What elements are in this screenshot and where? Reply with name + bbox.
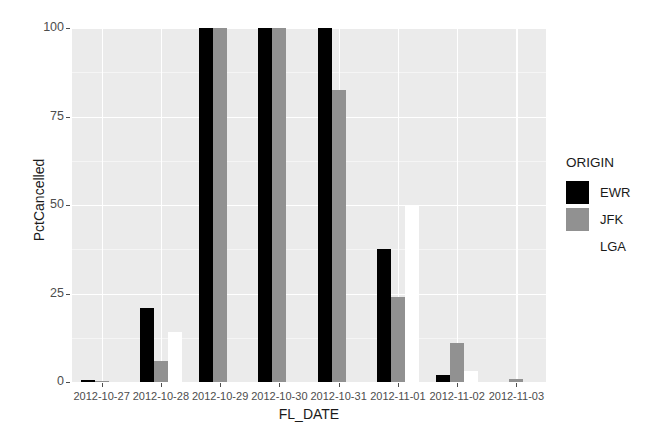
legend-item-lga[interactable]: LGA [566, 233, 652, 260]
x-tick-label: 2012-10-31 [310, 391, 366, 402]
bar-lga-2012-11-02 [464, 371, 478, 382]
x-tick-mark [279, 383, 280, 387]
gridline-vertical [102, 28, 103, 382]
y-tick-label: 50 [30, 198, 64, 211]
x-tick-label: 2012-11-01 [370, 391, 425, 402]
y-tick-mark [66, 294, 70, 295]
legend-swatch-icon [566, 208, 589, 231]
y-axis-ticks: 0255075100 [28, 0, 64, 443]
x-tick-label: 2012-10-28 [133, 391, 189, 402]
x-tick-label: 2012-10-29 [192, 391, 248, 402]
bar-ewr-2012-10-29 [199, 28, 213, 382]
y-tick-label: 75 [30, 110, 64, 123]
bar-ewr-2012-10-31 [318, 28, 332, 382]
bar-jfk-2012-10-28 [154, 361, 168, 382]
x-tick-mark [516, 383, 517, 387]
x-tick-label: 2012-10-30 [251, 391, 307, 402]
gridline-major [72, 294, 546, 295]
bar-lga-2012-10-28 [168, 332, 182, 382]
x-tick-mark [220, 383, 221, 387]
legend-item-label: JFK [600, 212, 623, 227]
gridline-minor [72, 72, 546, 73]
x-axis-title: FL_DATE [72, 406, 546, 422]
gridline-minor [72, 161, 546, 162]
legend-title: ORIGIN [566, 155, 652, 170]
bar-jfk-2012-10-31 [332, 90, 346, 382]
bar-lga-2012-11-01 [405, 205, 419, 382]
bar-jfk-2012-11-02 [450, 343, 464, 382]
bar-ewr-2012-11-01 [377, 249, 391, 382]
x-tick-mark [457, 383, 458, 387]
x-tick-mark [102, 383, 103, 387]
plot-area [72, 28, 546, 382]
bar-chart: PctCancelled 0255075100 2012-10-272012-1… [0, 0, 655, 443]
bar-ewr-2012-11-02 [436, 375, 450, 382]
gridline-major [72, 117, 546, 118]
bar-jfk-2012-10-27 [95, 381, 109, 382]
bar-ewr-2012-10-30 [258, 28, 272, 382]
legend-swatch-icon [566, 181, 589, 204]
gridline-major [72, 28, 546, 29]
x-tick-label: 2012-11-02 [429, 391, 484, 402]
x-tick-label: 2012-10-27 [73, 391, 129, 402]
y-tick-mark [66, 382, 70, 383]
bar-jfk-2012-11-03 [509, 379, 523, 382]
x-tick-label: 2012-11-03 [489, 391, 544, 402]
bar-jfk-2012-10-29 [213, 28, 227, 382]
legend-swatch-icon [566, 235, 589, 258]
bar-jfk-2012-10-30 [272, 28, 286, 382]
gridline-vertical [161, 28, 162, 382]
x-tick-mark [398, 383, 399, 387]
bar-jfk-2012-11-01 [391, 297, 405, 382]
gridline-major [72, 205, 546, 206]
bar-ewr-2012-10-27 [81, 380, 95, 382]
legend: ORIGIN EWRJFKLGA [566, 155, 652, 260]
gridline-vertical [516, 28, 517, 382]
y-tick-label: 0 [30, 375, 64, 388]
gridline-vertical [457, 28, 458, 382]
y-tick-label: 100 [30, 21, 64, 34]
x-tick-mark [161, 383, 162, 387]
gridline-minor [72, 249, 546, 250]
x-tick-mark [339, 383, 340, 387]
legend-item-ewr[interactable]: EWR [566, 179, 652, 206]
legend-item-label: LGA [600, 239, 626, 254]
bar-ewr-2012-10-28 [140, 308, 154, 382]
legend-item-jfk[interactable]: JFK [566, 206, 652, 233]
y-tick-mark [66, 205, 70, 206]
y-tick-mark [66, 117, 70, 118]
y-tick-label: 25 [30, 287, 64, 300]
legend-item-label: EWR [600, 185, 630, 200]
legend-items: EWRJFKLGA [566, 179, 652, 260]
y-tick-mark [66, 28, 70, 29]
